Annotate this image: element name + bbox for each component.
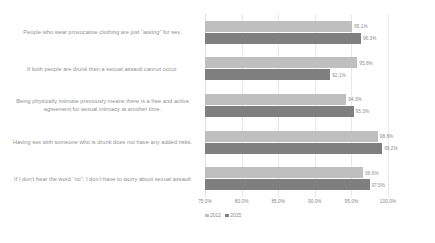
legend: 2012 2015 (205, 213, 241, 218)
legend-swatch-icon (225, 214, 229, 218)
x-tick-label: 85.0% (271, 199, 285, 204)
bar-value-label: 96.6% (365, 170, 379, 175)
x-tick-label: 80.0% (235, 199, 249, 204)
bar-value-label: 95.1% (354, 24, 368, 29)
bar-2012[interactable] (205, 94, 346, 105)
category-axis-labels: People who wear provocative clothing are… (8, 14, 201, 197)
category-label: If I don’t hear the word “no”, I don’t h… (8, 175, 201, 183)
category-label: People who wear provocative clothing are… (8, 28, 201, 36)
legend-label: 2012 (210, 213, 221, 218)
bar-group: 95.1%96.3% (205, 14, 388, 51)
bar-value-label: 92.1% (332, 72, 346, 77)
bar-2015[interactable] (205, 106, 354, 117)
x-tick-label: 75.0% (198, 199, 212, 204)
bar-value-label: 97.5% (372, 182, 386, 187)
bar-slot: 94.3% (205, 94, 388, 105)
legend-item-2012[interactable]: 2012 (205, 213, 221, 218)
bar-2012[interactable] (205, 57, 357, 68)
bar-group-bars: 95.1%96.3% (205, 21, 388, 44)
bar-2012[interactable] (205, 167, 363, 178)
bar-chart: People who wear provocative clothing are… (0, 0, 435, 243)
bar-slot: 99.2% (205, 143, 388, 154)
bar-value-label: 95.3% (356, 109, 370, 114)
category-label: Having sex with someone who is drunk doe… (8, 138, 201, 146)
bar-slot: 97.5% (205, 179, 388, 190)
bar-value-label: 99.2% (384, 146, 398, 151)
gridline (388, 14, 389, 197)
x-tick-label: 100.0% (380, 199, 396, 204)
bar-slot: 95.1% (205, 21, 388, 32)
bar-value-label: 96.3% (363, 36, 377, 41)
bar-group: 94.3%95.3% (205, 87, 388, 124)
bar-slot: 92.1% (205, 69, 388, 80)
category-label-row: If both people are drunk then a sexual a… (8, 51, 201, 88)
bar-slot: 96.3% (205, 33, 388, 44)
category-label-row: Having sex with someone who is drunk doe… (8, 124, 201, 161)
bar-value-label: 94.3% (348, 97, 362, 102)
bar-group: 98.6%99.2% (205, 124, 388, 161)
bar-slot: 98.6% (205, 131, 388, 142)
bar-group: 95.8%92.1% (205, 51, 388, 88)
bar-group-bars: 98.6%99.2% (205, 131, 388, 154)
bar-group-bars: 94.3%95.3% (205, 94, 388, 117)
bar-value-label: 98.6% (380, 134, 394, 139)
legend-swatch-icon (205, 214, 209, 218)
bar-2015[interactable] (205, 143, 382, 154)
bar-2012[interactable] (205, 21, 352, 32)
category-label-row: Being physically intimate previously mea… (8, 87, 201, 124)
category-label-row: People who wear provocative clothing are… (8, 14, 201, 51)
x-tick-label: 95.0% (345, 199, 359, 204)
plot-area: 95.1%96.3%95.8%92.1%94.3%95.3%98.6%99.2%… (205, 14, 388, 197)
bar-rows: 95.1%96.3%95.8%92.1%94.3%95.3%98.6%99.2%… (205, 14, 388, 197)
category-label: Being physically intimate previously mea… (8, 97, 201, 113)
x-axis: 75.0%80.0%85.0%90.0%95.0%100.0% (205, 199, 388, 211)
bar-2012[interactable] (205, 131, 378, 142)
category-label-row: If I don’t hear the word “no”, I don’t h… (8, 160, 201, 197)
category-label: If both people are drunk then a sexual a… (8, 65, 201, 73)
bar-2015[interactable] (205, 179, 370, 190)
bar-slot: 95.8% (205, 57, 388, 68)
bar-group-bars: 95.8%92.1% (205, 57, 388, 80)
legend-label: 2015 (230, 213, 241, 218)
bar-2015[interactable] (205, 69, 330, 80)
legend-item-2015[interactable]: 2015 (225, 213, 241, 218)
bar-2015[interactable] (205, 33, 361, 44)
bar-slot: 96.6% (205, 167, 388, 178)
bar-group-bars: 96.6%97.5% (205, 167, 388, 190)
bar-slot: 95.3% (205, 106, 388, 117)
bar-value-label: 95.8% (359, 60, 373, 65)
x-tick-label: 90.0% (308, 199, 322, 204)
bar-group: 96.6%97.5% (205, 160, 388, 197)
